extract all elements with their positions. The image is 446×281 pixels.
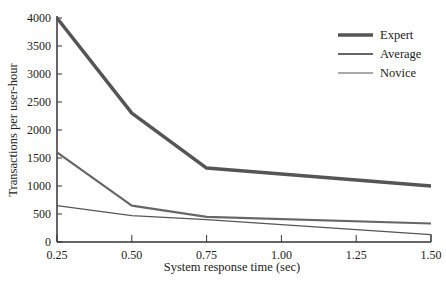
x-tick-label: 0.25 bbox=[47, 248, 68, 262]
y-tick-label: 3000 bbox=[27, 67, 51, 81]
legend-label: Expert bbox=[380, 28, 414, 42]
x-tick-label: 0.50 bbox=[121, 248, 142, 262]
line-chart: 050010001500200025003000350040000.250.50… bbox=[0, 0, 446, 281]
x-tick-label: 1.50 bbox=[421, 248, 442, 262]
y-tick-label: 1000 bbox=[27, 179, 51, 193]
legend-label: Novice bbox=[380, 66, 417, 80]
y-tick-label: 0 bbox=[45, 235, 51, 249]
series-novice-line bbox=[57, 206, 431, 235]
y-axis-label: Transactions per user-hour bbox=[6, 63, 20, 197]
y-tick-label: 2500 bbox=[27, 95, 51, 109]
y-tick-label: 3500 bbox=[27, 39, 51, 53]
y-tick-label: 4000 bbox=[27, 11, 51, 25]
series-expert-line bbox=[57, 18, 431, 186]
x-tick-label: 1.25 bbox=[346, 248, 367, 262]
y-tick-label: 2000 bbox=[27, 123, 51, 137]
y-tick-label: 1500 bbox=[27, 151, 51, 165]
y-tick-label: 500 bbox=[33, 207, 51, 221]
legend-label: Average bbox=[380, 47, 422, 61]
x-axis-label: System response time (sec) bbox=[164, 260, 300, 274]
